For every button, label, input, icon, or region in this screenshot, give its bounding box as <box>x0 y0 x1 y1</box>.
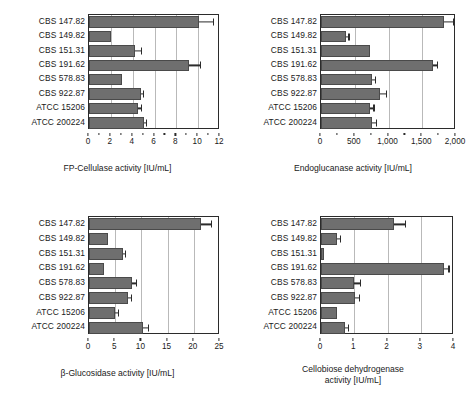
x-tick-mark <box>387 133 388 136</box>
bars-beta-glucosidase <box>89 217 218 333</box>
x-tick-mark <box>87 133 88 136</box>
error-bar-cap <box>211 221 212 228</box>
category-label: CBS 147.82 <box>39 219 85 227</box>
error-bar-cap <box>141 105 142 112</box>
x-tick-label: 4 <box>129 138 134 146</box>
error-bar-cap <box>340 236 341 243</box>
category-label: CBS 149.82 <box>39 234 85 242</box>
bar-row <box>89 117 218 129</box>
category-label: CBS 191.62 <box>271 263 317 271</box>
x-tick-mark <box>353 133 354 136</box>
x-tick-label: 0 <box>318 138 323 146</box>
panel-beta-glucosidase-inner: CBS 147.82CBS 149.82CBS 151.31CBS 191.62… <box>0 196 235 402</box>
category-label: CBS 151.31 <box>39 46 85 54</box>
category-label: CBS 147.82 <box>271 17 317 25</box>
error-bar-cap <box>448 265 449 272</box>
x-tick-mark-minor <box>207 133 208 135</box>
x-tick-label: 20 <box>188 343 197 351</box>
bar-row <box>321 31 454 43</box>
bar-row <box>321 103 454 115</box>
error-bar-cap <box>386 91 387 98</box>
bar <box>321 248 324 260</box>
bar-row <box>321 117 454 129</box>
error-bar <box>354 283 361 284</box>
x-tick-label: 4 <box>451 343 456 351</box>
x-tick-mark-minor <box>142 133 143 135</box>
x-tick-label: 2,000 <box>445 138 466 146</box>
bar <box>321 88 380 100</box>
category-labels-beta-glucosidase: CBS 147.82CBS 149.82CBS 151.31CBS 191.62… <box>0 216 85 334</box>
x-tick-label: 0 <box>86 343 91 351</box>
panel-endoglucanase: CBS 147.82CBS 149.82CBS 151.31CBS 191.62… <box>235 0 471 196</box>
error-bar-cap <box>405 221 406 228</box>
category-label: CBS 578.83 <box>39 278 85 286</box>
x-tick-mark <box>386 338 387 341</box>
category-label: CBS 922.87 <box>271 293 317 301</box>
x-tick-mark <box>319 338 320 341</box>
bar <box>321 277 354 289</box>
x-axis-title-line-1: Cellobiose dehydrogenase <box>235 364 471 375</box>
bar-row <box>89 248 218 260</box>
category-labels-endoglucanase: CBS 147.82CBS 149.82CBS 151.31CBS 191.62… <box>235 14 317 129</box>
bar-row <box>321 60 454 72</box>
category-label: CBS 149.82 <box>271 234 317 242</box>
x-tick-mark <box>218 133 219 136</box>
error-bar-cap <box>359 295 360 302</box>
category-label: ATCC 15206 <box>36 308 85 316</box>
x-tick-mark <box>421 133 422 136</box>
x-tick-mark <box>192 338 193 341</box>
category-label: CBS 147.82 <box>39 17 85 25</box>
error-bar-cap <box>437 62 438 69</box>
category-labels-fp-cellulase: CBS 147.82CBS 149.82CBS 151.31CBS 191.62… <box>0 14 85 129</box>
bar <box>321 45 370 57</box>
bar <box>89 218 201 230</box>
bar <box>89 88 141 100</box>
x-axis-title-cellobiose-dehydrogenase: Cellobiose dehydrogenase activity [IU/mL… <box>235 364 471 385</box>
bar-row <box>321 307 452 319</box>
bar-row <box>321 16 454 28</box>
bar <box>321 103 370 115</box>
bar <box>89 60 189 72</box>
bar-row <box>89 16 218 28</box>
bar-row <box>321 248 452 260</box>
bars-cellobiose-dehydrogenase <box>321 217 452 333</box>
category-label: CBS 191.62 <box>271 60 317 68</box>
x-tick-mark <box>131 133 132 136</box>
category-label: CBS 151.31 <box>39 249 85 257</box>
panel-endoglucanase-inner: CBS 147.82CBS 149.82CBS 151.31CBS 191.62… <box>235 0 471 196</box>
bar <box>321 117 372 129</box>
bar <box>89 248 123 260</box>
bar <box>89 307 115 319</box>
category-label: CBS 578.83 <box>271 278 317 286</box>
bar-row <box>321 74 454 86</box>
x-tick-mark-minor <box>98 133 99 135</box>
x-tick-label: 3 <box>417 343 422 351</box>
x-tick-mark <box>114 338 115 341</box>
bar <box>321 292 355 304</box>
bar <box>89 233 108 245</box>
category-label: CBS 578.83 <box>39 74 85 82</box>
x-tick-label: 10 <box>193 138 202 146</box>
category-label: CBS 151.31 <box>271 46 317 54</box>
x-tick-label: 15 <box>162 343 171 351</box>
error-bar <box>394 224 405 225</box>
x-tick-label: 1 <box>351 343 356 351</box>
category-label: ATCC 15206 <box>36 103 85 111</box>
category-label: CBS 149.82 <box>271 31 317 39</box>
category-label: CBS 151.31 <box>271 249 317 257</box>
bar-row <box>89 322 218 334</box>
x-tick-mark <box>109 133 110 136</box>
x-axis-title-beta-glucosidase: β-Glucosidase activity [IU/mL] <box>0 368 235 379</box>
error-bar <box>201 224 211 225</box>
bar-row <box>321 233 452 245</box>
x-tick-mark-minor <box>370 133 371 135</box>
x-tick-label: 1,500 <box>411 138 432 146</box>
bar-row <box>89 45 218 57</box>
category-labels-cellobiose-dehydrogenase: CBS 147.82CBS 149.82CBS 151.31CBS 191.62… <box>235 216 317 334</box>
bar <box>89 31 111 43</box>
plot-area-fp-cellulase <box>88 14 219 129</box>
x-tick-mark-minor <box>438 133 439 135</box>
error-bar-cap <box>143 91 144 98</box>
error-bar-cap <box>136 280 137 287</box>
x-tick-label: 1,000 <box>377 138 398 146</box>
